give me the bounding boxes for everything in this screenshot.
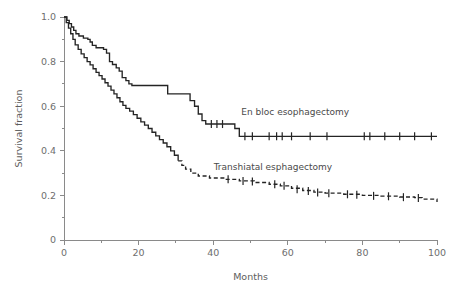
- y-tick-label: 0.4: [41, 145, 56, 156]
- x-axis-group: 020406080100 Months: [61, 240, 446, 282]
- y-tick-label: 0.6: [41, 101, 56, 112]
- curve-solid-segment: [64, 17, 437, 136]
- x-tick-label: 0: [61, 247, 67, 258]
- y-axis-tick-labels: 00.20.40.60.81.0: [41, 11, 56, 245]
- survival-curve-figure: 00.20.40.60.81.0 Survival fraction 02040…: [0, 0, 466, 294]
- y-tick-label: 1.0: [41, 11, 56, 22]
- x-tick-label: 40: [207, 247, 219, 258]
- series-label-1: En bloc esophagectomy: [241, 107, 349, 117]
- curve-solid-segment: [64, 17, 178, 161]
- series-label-2: Transhiatal esphagectomy: [213, 162, 333, 172]
- y-tick-label: 0.2: [41, 190, 56, 201]
- x-tick-label: 100: [428, 247, 446, 258]
- series-annotations: En bloc esophagectomyTranshiatal esphage…: [213, 107, 350, 172]
- x-tick-label: 80: [356, 247, 368, 258]
- chart-canvas: 00.20.40.60.81.0 Survival fraction 02040…: [0, 0, 466, 294]
- series-1-curve: [64, 17, 437, 140]
- x-tick-label: 60: [282, 247, 294, 258]
- x-axis-title: Months: [233, 271, 268, 282]
- x-tick-label: 20: [133, 247, 145, 258]
- y-axis-group: 00.20.40.60.81.0 Survival fraction: [13, 11, 64, 245]
- y-tick-label: 0.8: [41, 56, 56, 67]
- y-tick-label: 0: [50, 234, 56, 245]
- y-axis-title: Survival fraction: [13, 90, 24, 168]
- x-axis-tick-labels: 020406080100: [61, 247, 446, 258]
